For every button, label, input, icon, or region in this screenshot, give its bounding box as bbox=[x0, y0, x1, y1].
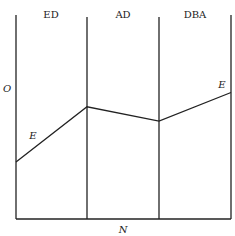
curve-e bbox=[16, 93, 231, 162]
y-axis-label: O bbox=[3, 83, 11, 94]
column-label-ed: ED bbox=[43, 9, 58, 20]
curve-label-e-left: E bbox=[28, 130, 37, 141]
curve-label-e-right: E bbox=[217, 79, 226, 90]
x-axis-label: N bbox=[118, 224, 129, 235]
diagram: ED AD DBA O N E E bbox=[0, 0, 235, 236]
column-label-dba: DBA bbox=[184, 9, 207, 20]
column-label-ad: AD bbox=[114, 9, 130, 20]
